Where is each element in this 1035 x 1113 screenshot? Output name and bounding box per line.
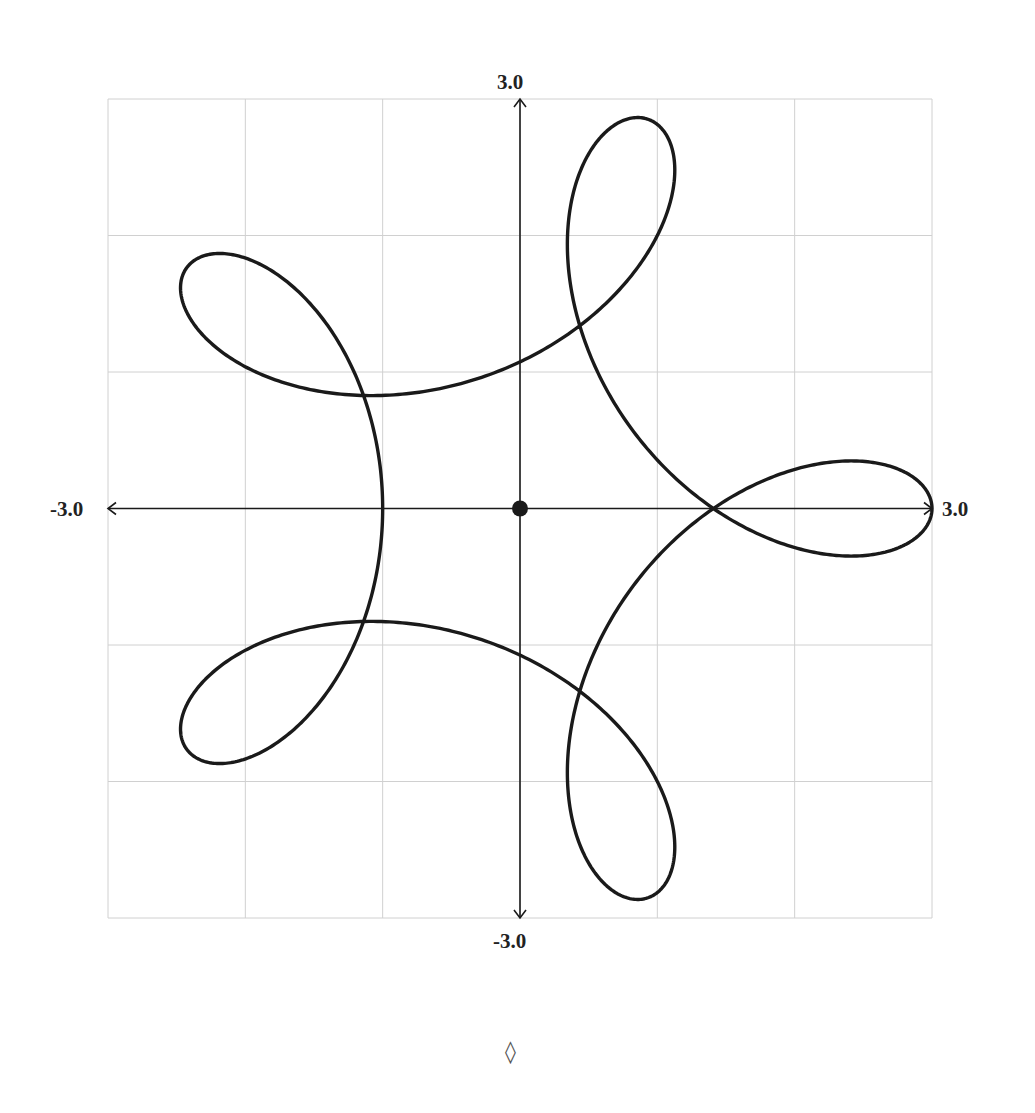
y-axis-min-label: -3.0: [493, 931, 526, 952]
diamond-icon: ◊: [505, 1041, 516, 1063]
x-axis-min-label: -3.0: [50, 499, 83, 520]
y-axis-max-label: 3.0: [497, 72, 523, 93]
x-axis-max-label: 3.0: [942, 499, 968, 520]
origin-marker: [512, 501, 528, 517]
